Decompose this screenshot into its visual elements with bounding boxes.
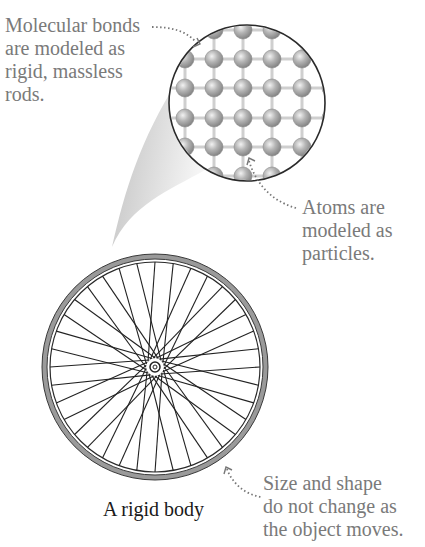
atom-particle [205, 50, 223, 68]
atom-particle [176, 196, 194, 214]
bonds-line-4: rods. [5, 83, 140, 106]
atom-particle [263, 79, 281, 97]
atom-particle [234, 79, 252, 97]
atom-particle [263, 196, 281, 214]
atom-particle [205, 138, 223, 156]
atom-particle [322, 167, 340, 185]
atom-particle [234, 21, 252, 39]
shape-line-3: the object moves. [263, 518, 404, 541]
atom-particle [205, 196, 223, 214]
bonds-leader-line [152, 27, 196, 42]
wheel-spoke [119, 375, 160, 466]
bonds-line-3: rigid, massless [5, 60, 140, 83]
atom-particle [293, 109, 311, 127]
atom-particle [293, 138, 311, 156]
atom-particle [147, 50, 165, 68]
atom-particle [176, 109, 194, 127]
atom-particle [147, 79, 165, 97]
atom-particle [263, 50, 281, 68]
atom-particle [234, 109, 252, 127]
atoms-line-2: modeled as [302, 219, 393, 242]
atom-particle [176, 21, 194, 39]
wheel-spoke [150, 268, 191, 359]
bonds-annotation: Molecular bonds are modeled as rigid, ma… [5, 14, 140, 106]
shape-annotation: Size and shape do not change as the obje… [263, 472, 404, 541]
atoms-line-1: Atoms are [302, 196, 393, 219]
wheel-spoke [163, 331, 254, 372]
atom-particle [263, 0, 281, 10]
wheel-spoke [56, 362, 147, 403]
atom-particle [234, 196, 252, 214]
atom-particle [147, 0, 165, 10]
atom-particle [176, 79, 194, 97]
atom-particle [263, 138, 281, 156]
atom-particle [205, 109, 223, 127]
atom-particle [322, 21, 340, 39]
atom-particle [205, 0, 223, 10]
figure-caption: A rigid body [103, 498, 204, 521]
atom-particle [147, 21, 165, 39]
rigid-body-diagram: Molecular bonds are modeled as rigid, ma… [0, 0, 425, 547]
atom-particle [176, 0, 194, 10]
shape-line-1: Size and shape [263, 472, 404, 495]
bicycle-wheel [42, 254, 268, 480]
atom-particle [205, 79, 223, 97]
atom-particle [293, 21, 311, 39]
atom-particle [234, 50, 252, 68]
wheel-spoke [137, 371, 147, 470]
atom-particle [234, 0, 252, 10]
atoms-line-3: particles. [302, 242, 393, 265]
atom-particle [293, 0, 311, 10]
atom-particle [322, 138, 340, 156]
wheel-spoke [163, 264, 173, 363]
bonds-line-2: are modeled as [5, 37, 140, 60]
atom-particle [234, 167, 252, 185]
atom-particle [293, 79, 311, 97]
shape-line-2: do not change as [263, 495, 404, 518]
atom-particle [322, 0, 340, 10]
atom-particle [293, 50, 311, 68]
atom-particle [322, 50, 340, 68]
atom-particle [293, 167, 311, 185]
wheel-spoke [52, 375, 151, 385]
atom-particle [263, 109, 281, 127]
wheel-spoke [159, 349, 258, 359]
atom-particle [234, 138, 252, 156]
atoms-annotation: Atoms are modeled as particles. [302, 196, 393, 265]
shape-leader-line [227, 469, 262, 497]
bonds-line-1: Molecular bonds [5, 14, 140, 37]
wheel-hub [150, 362, 160, 372]
